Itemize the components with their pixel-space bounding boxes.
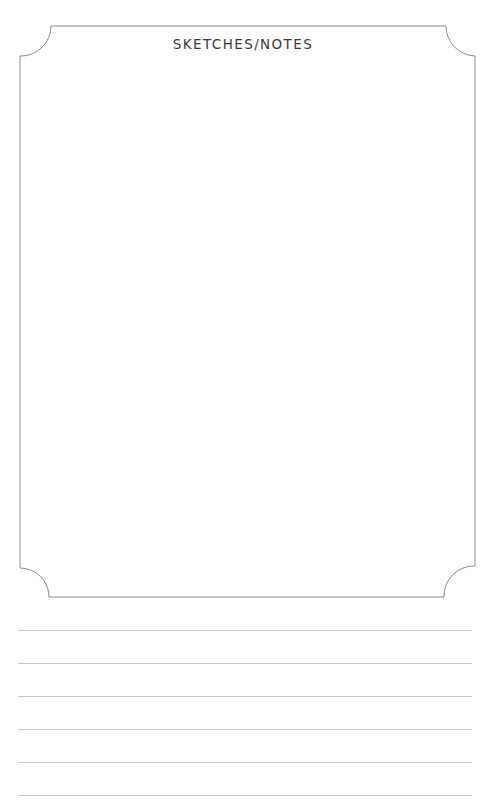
ruled-line [18,663,472,664]
page-title: SKETCHES/NOTES [0,36,486,52]
ruled-line [18,729,472,730]
ruled-line [18,795,472,796]
ruled-line [18,630,472,631]
ruled-line [18,762,472,763]
sketch-frame [0,0,486,610]
ruled-line [18,696,472,697]
